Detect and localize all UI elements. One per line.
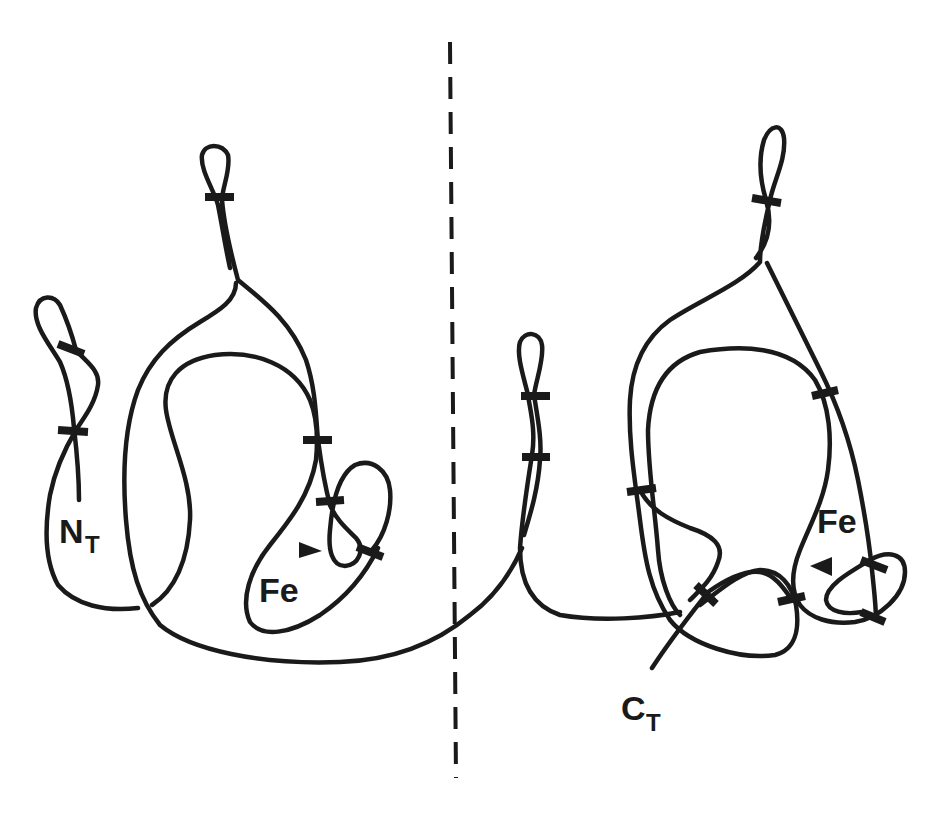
disulfide-bridge	[627, 488, 656, 492]
disulfide-bridge	[812, 390, 838, 396]
iron-site-marker-icon	[299, 542, 322, 558]
c-terminus-subscript: T	[646, 709, 661, 736]
domain-divider-dashed-line	[450, 42, 456, 778]
c-terminus-label: C	[621, 689, 646, 727]
disulfide-bridge	[778, 596, 805, 602]
protein-topology-diagram: N T Fe Fe C T	[0, 0, 935, 813]
n-terminus-subscript: T	[85, 531, 100, 558]
disulfide-bridge	[316, 500, 344, 502]
iron-site-marker-icon	[810, 557, 832, 576]
disulfide-bridge	[861, 560, 887, 570]
n-terminus-label: N	[59, 512, 84, 550]
iron-label-left: Fe	[259, 571, 299, 609]
disulfide-bridge	[752, 198, 781, 203]
disulfide-bridge	[58, 344, 84, 354]
iron-label-right: Fe	[817, 502, 857, 540]
right-domain	[627, 127, 905, 668]
central-linker-hairpin	[519, 334, 680, 619]
n-terminal-strand	[36, 297, 138, 609]
disulfide-bridge	[58, 430, 88, 432]
